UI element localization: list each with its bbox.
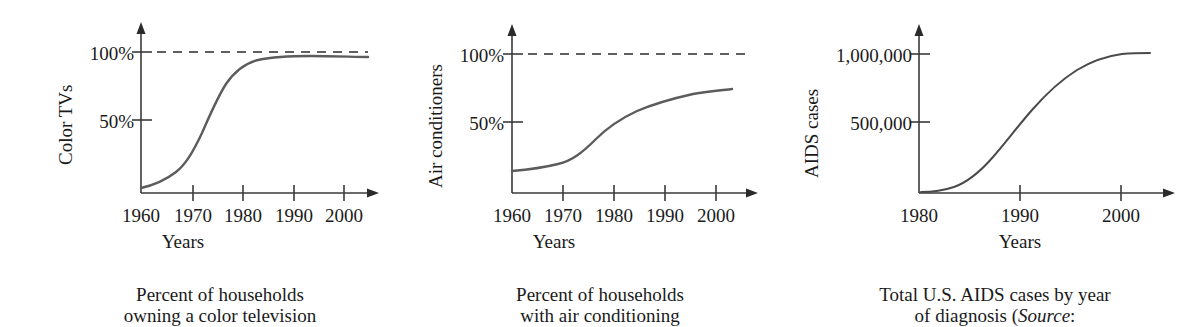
- chart-panel-color-tvs: 100% 50% 1960 1970 1980 1990 2000 Years …: [0, 0, 390, 327]
- panel-caption-line-1: Percent of households: [50, 284, 390, 305]
- y-tick-label-100: 100%: [72, 44, 134, 63]
- panel-caption-line-1: Total U.S. AIDS cases by year: [812, 284, 1178, 305]
- x-tick-label-1990: 1990: [990, 206, 1050, 225]
- panel-caption-line-2: owning a color television: [50, 305, 390, 326]
- x-axis-arrow-icon: [367, 189, 379, 198]
- series-curve-color-tvs: [141, 56, 368, 188]
- x-axis-title: Years: [494, 232, 614, 251]
- x-axis-arrow-icon: [746, 189, 758, 198]
- y-axis-arrow-icon: [137, 22, 146, 34]
- panel-caption-line-2-prefix: of diagnosis (: [915, 305, 1018, 326]
- x-tick-label-1960: 1960: [111, 206, 171, 225]
- x-axis-arrow-icon: [1163, 189, 1175, 198]
- y-axis-arrow-icon: [915, 24, 924, 36]
- x-tick-label-2000: 2000: [314, 206, 374, 225]
- y-axis-title: Color TVs: [56, 85, 75, 165]
- x-tick-label-2000: 2000: [1091, 206, 1151, 225]
- y-axis-arrow-icon: [508, 24, 517, 36]
- y-axis-title: AIDS cases: [802, 89, 821, 178]
- chart-panel-aids-cases: 1,000,000 500,000 1980 1990 2000 Years A…: [780, 0, 1178, 327]
- panel-caption: Total U.S. AIDS cases by year of diagnos…: [780, 284, 1178, 326]
- x-tick-label-1980: 1980: [889, 206, 949, 225]
- x-axis-title: Years: [960, 232, 1080, 251]
- x-tick-label-2000: 2000: [686, 206, 746, 225]
- x-axis-title: Years: [123, 232, 243, 251]
- y-tick-label-50: 50%: [72, 112, 134, 131]
- panel-caption-source-word: Source: [1018, 305, 1070, 326]
- y-tick-label-100: 100%: [442, 46, 504, 65]
- y-tick-label-1000000: 1,000,000: [790, 46, 912, 65]
- y-axis-title: Air conditioners: [426, 64, 445, 188]
- panel-caption-line-2: of diagnosis (Source:: [812, 305, 1178, 326]
- series-curve-air-conditioners: [512, 89, 732, 171]
- series-curve-aids-cases: [921, 53, 1150, 192]
- panel-caption-line-2: with air conditioning: [420, 305, 780, 326]
- y-tick-label-50: 50%: [442, 114, 504, 133]
- panel-caption-line-2-suffix: :: [1070, 305, 1075, 326]
- panel-caption: Percent of households with air condition…: [390, 284, 780, 326]
- panel-caption: Percent of households owning a color tel…: [0, 284, 390, 326]
- panel-caption-line-1: Percent of households: [420, 284, 780, 305]
- chart-panel-air-conditioners: 100% 50% 1960 1970 1980 1990 2000 Years …: [390, 0, 780, 327]
